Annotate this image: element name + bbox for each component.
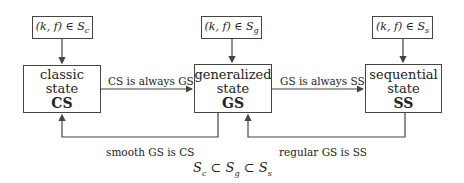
edge-label-gs-to-ss: GS is always SS — [280, 75, 365, 87]
state-abbr: GS — [222, 96, 244, 110]
state-abbr: CS — [51, 96, 72, 110]
state-line1: sequential — [369, 68, 437, 82]
state-box-generalized: generalized state GS — [194, 64, 272, 113]
state-line2: state — [217, 82, 250, 96]
condition-box-classic: (k, f) ∈ Sc — [32, 16, 93, 39]
subset-formula: Sc ⊂ Sg ⊂ Ss — [193, 160, 272, 178]
state-line2: state — [46, 82, 79, 96]
state-box-sequential: sequential state SS — [365, 64, 442, 113]
condition-text: (k, f) ∈ Sg — [204, 20, 258, 35]
condition-box-sequential: (k, f) ∈ Ss — [372, 16, 433, 39]
state-line1: classic — [40, 68, 84, 82]
condition-box-generalized: (k, f) ∈ Sg — [201, 16, 262, 39]
edge-label-cs-to-gs: CS is always GS — [108, 75, 194, 87]
state-line1: generalized — [194, 68, 271, 82]
edge-label-gs-to-cs: smooth GS is CS — [106, 146, 195, 158]
condition-text: (k, f) ∈ Ss — [376, 20, 429, 35]
state-line2: state — [387, 82, 420, 96]
state-box-classic: classic state CS — [23, 65, 101, 113]
condition-text: (k, f) ∈ Sc — [36, 20, 89, 35]
state-abbr: SS — [394, 96, 414, 110]
edge-label-ss-to-gs: regular GS is SS — [279, 146, 367, 158]
